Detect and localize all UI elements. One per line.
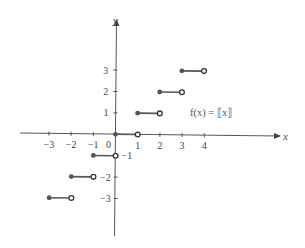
x-tick-label: 1 bbox=[135, 140, 140, 151]
y-tick-label: 3 bbox=[103, 65, 108, 76]
open-endpoint bbox=[135, 132, 140, 137]
open-endpoint bbox=[69, 196, 74, 201]
y-tick-label: 2 bbox=[103, 86, 108, 97]
x-axis-label: x bbox=[282, 130, 288, 142]
y-tick-label: −2 bbox=[100, 172, 111, 183]
y-tick-label: −1 bbox=[122, 150, 133, 161]
open-endpoint bbox=[113, 153, 118, 158]
closed-endpoint bbox=[157, 90, 162, 95]
y-axis bbox=[115, 20, 117, 236]
closed-endpoint bbox=[113, 132, 118, 137]
x-tick-label: −3 bbox=[44, 139, 55, 150]
closed-endpoint bbox=[91, 153, 96, 158]
y-tick-label: 1 bbox=[103, 107, 108, 118]
step-function-plot: x y −3−2−101234321−1−2−3 f(x) = ⟦x⟧ bbox=[0, 0, 305, 248]
x-tick-label: 2 bbox=[157, 140, 162, 151]
closed-endpoint bbox=[179, 68, 184, 73]
closed-endpoint bbox=[47, 195, 52, 200]
open-endpoint bbox=[180, 90, 185, 95]
closed-endpoint bbox=[69, 174, 74, 179]
axes: x y bbox=[20, 14, 288, 236]
x-tick-label: 4 bbox=[202, 140, 207, 151]
x-tick-label: −1 bbox=[88, 139, 99, 150]
closed-endpoint bbox=[135, 111, 140, 116]
function-label: f(x) = ⟦x⟧ bbox=[190, 107, 232, 119]
y-axis-label: y bbox=[112, 14, 118, 26]
x-tick-label: 3 bbox=[180, 140, 185, 151]
x-axis bbox=[20, 133, 280, 136]
y-tick-label: −3 bbox=[100, 193, 111, 204]
x-tick-label: −2 bbox=[66, 139, 77, 150]
open-endpoint bbox=[202, 69, 207, 74]
x-tick-label: 0 bbox=[106, 139, 111, 150]
open-endpoint bbox=[157, 111, 162, 116]
open-endpoint bbox=[91, 174, 96, 179]
